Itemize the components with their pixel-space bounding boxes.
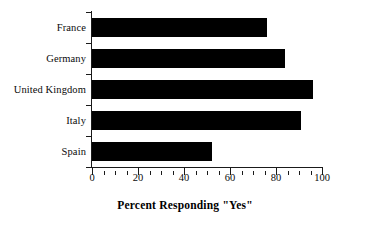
y-axis-category-label: United Kingdom xyxy=(14,84,86,95)
y-axis-category-label: France xyxy=(57,22,86,33)
x-axis-tick-labels: 020406080100 xyxy=(92,171,323,187)
x-axis-tick-label: 80 xyxy=(271,171,282,184)
y-axis-category-label: Spain xyxy=(62,146,86,157)
plot-area xyxy=(92,12,322,167)
x-axis-title: Percent Responding "Yes" xyxy=(0,199,370,211)
y-axis-category-label: Italy xyxy=(66,115,86,126)
bar-chart: FranceGermanyUnited KingdomItalySpain 02… xyxy=(0,0,370,228)
bar xyxy=(92,142,212,161)
x-axis-tick-label: 40 xyxy=(179,171,190,184)
bar xyxy=(92,111,301,130)
bar xyxy=(92,80,313,99)
x-axis-tick-label: 0 xyxy=(89,171,94,184)
x-axis-tick-label: 100 xyxy=(314,171,330,184)
x-axis-tick-label: 20 xyxy=(133,171,144,184)
x-axis-tick-label: 60 xyxy=(225,171,236,184)
y-axis-category-labels: FranceGermanyUnited KingdomItalySpain xyxy=(0,0,86,228)
y-axis-category-label: Germany xyxy=(46,53,86,64)
bar xyxy=(92,18,267,37)
bar xyxy=(92,49,285,68)
